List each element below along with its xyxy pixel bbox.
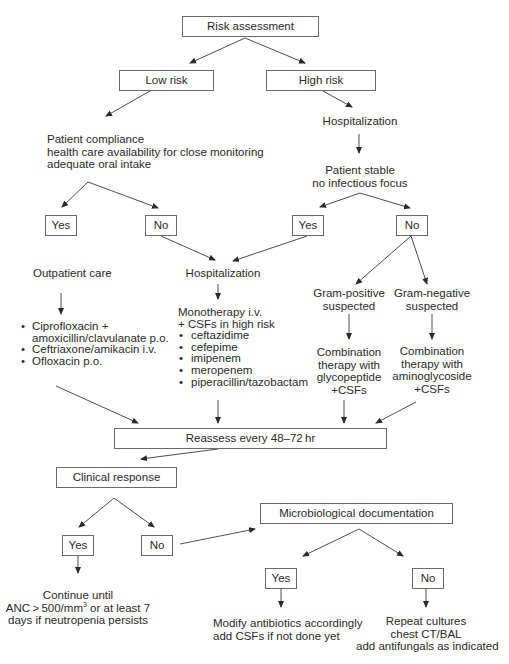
high-risk-box: High risk bbox=[266, 70, 376, 91]
clinical-response-box: Clinical response bbox=[56, 467, 177, 488]
yes-label: Yes bbox=[299, 220, 318, 232]
action-line: add CSFs if not done yet bbox=[213, 630, 363, 643]
monotherapy-block: Monotherapy i.v. + CSFs in high risk cef… bbox=[178, 307, 308, 388]
drug-item: piperacillin/tazobactam bbox=[179, 377, 308, 389]
low-risk-criteria: Patient compliance health care availabil… bbox=[47, 133, 264, 171]
combo-line: aminoglycoside bbox=[382, 370, 482, 383]
high-risk-label: High risk bbox=[299, 75, 344, 87]
outpatient-regimen-list: Ciprofloxacin + amoxicillin/clavulanate … bbox=[21, 321, 169, 367]
regimen-item: Ciprofloxacin + bbox=[21, 321, 169, 333]
gram-negative-line: suspected bbox=[382, 300, 482, 313]
stable-line: Patient stable bbox=[300, 164, 420, 177]
gram-negative-line: Gram-negative bbox=[382, 287, 482, 300]
stable-line: no infectious focus bbox=[300, 177, 420, 190]
no-label: No bbox=[421, 573, 436, 585]
low-yes-box: Yes bbox=[45, 215, 77, 236]
no-label: No bbox=[405, 220, 420, 232]
anc-threshold: ANC > 500/mm bbox=[6, 602, 83, 614]
monotherapy-line: Monotherapy i.v. bbox=[178, 307, 308, 319]
continue-line: Continue until bbox=[3, 589, 153, 602]
repeat-cultures-text: Repeat cultures chest CT/BAL add antifun… bbox=[356, 615, 496, 653]
high-yes-box: Yes bbox=[292, 215, 324, 236]
combo-line: glycopeptide bbox=[304, 371, 394, 384]
clinical-no-box: No bbox=[141, 535, 173, 556]
modify-antibiotics-text: Modify antibiotics accordingly add CSFs … bbox=[213, 617, 363, 642]
gram-negative-label: Gram-negative suspected bbox=[382, 287, 482, 312]
regimen-item: Ofloxacin p.o. bbox=[21, 356, 169, 368]
gram-positive-label: Gram-positive suspected bbox=[304, 287, 394, 312]
criteria-line: health care availability for close monit… bbox=[47, 146, 264, 159]
yes-label: Yes bbox=[52, 220, 71, 232]
reassess-label: Reassess every 48–72 hr bbox=[186, 433, 316, 445]
micro-yes-box: Yes bbox=[265, 568, 297, 589]
low-risk-label: Low risk bbox=[145, 75, 187, 87]
combo-line: therapy with bbox=[304, 359, 394, 372]
risk-assessment-box: Risk assessment bbox=[182, 16, 319, 37]
action-line: chest CT/BAL bbox=[356, 628, 496, 641]
combo-line: Combination bbox=[304, 346, 394, 359]
gram-positive-line: Gram-positive bbox=[304, 287, 394, 300]
combo-line: +CSFs bbox=[304, 384, 394, 397]
clinical-yes-box: Yes bbox=[62, 535, 94, 556]
outpatient-care-label: Outpatient care bbox=[33, 267, 112, 280]
patient-stable-criteria: Patient stable no infectious focus bbox=[300, 164, 420, 189]
continue-line: days if neutropenia persists bbox=[3, 614, 153, 627]
gram-positive-line: suspected bbox=[304, 300, 394, 313]
action-line: Modify antibiotics accordingly bbox=[213, 617, 363, 630]
reassess-box: Reassess every 48–72 hr bbox=[114, 428, 387, 449]
continue-until-text: Continue until ANC > 500/mm3 or at least… bbox=[3, 589, 153, 627]
yes-label: Yes bbox=[272, 573, 291, 585]
high-no-box: No bbox=[396, 215, 428, 236]
continue-tail: or at least 7 bbox=[87, 602, 150, 614]
criteria-line: Patient compliance bbox=[47, 133, 264, 146]
no-label: No bbox=[154, 220, 169, 232]
action-line: add antifungals as indicated bbox=[356, 640, 496, 653]
combo-line: Combination bbox=[382, 345, 482, 358]
combination-aminoglycoside: Combination therapy with aminoglycoside … bbox=[382, 345, 482, 395]
yes-label: Yes bbox=[69, 540, 88, 552]
micro-no-box: No bbox=[412, 568, 444, 589]
no-label: No bbox=[150, 540, 165, 552]
high-risk-hospitalization: Hospitalization bbox=[310, 115, 410, 128]
combination-glycopeptide: Combination therapy with glycopeptide +C… bbox=[304, 346, 394, 396]
continue-line: ANC > 500/mm3 or at least 7 bbox=[3, 602, 153, 615]
middle-hospitalization: Hospitalization bbox=[173, 267, 273, 280]
combo-line: +CSFs bbox=[382, 383, 482, 396]
drug-item: meropenem bbox=[179, 365, 308, 377]
low-risk-box: Low risk bbox=[119, 70, 214, 91]
action-line: Repeat cultures bbox=[356, 615, 496, 628]
microbiological-documentation-box: Microbiological documentation bbox=[260, 503, 453, 524]
low-no-box: No bbox=[145, 215, 177, 236]
micro-label: Microbiological documentation bbox=[279, 508, 434, 520]
risk-assessment-label: Risk assessment bbox=[207, 21, 294, 33]
criteria-line: adequate oral intake bbox=[47, 158, 264, 171]
combo-line: therapy with bbox=[382, 358, 482, 371]
clinical-response-label: Clinical response bbox=[73, 472, 161, 484]
